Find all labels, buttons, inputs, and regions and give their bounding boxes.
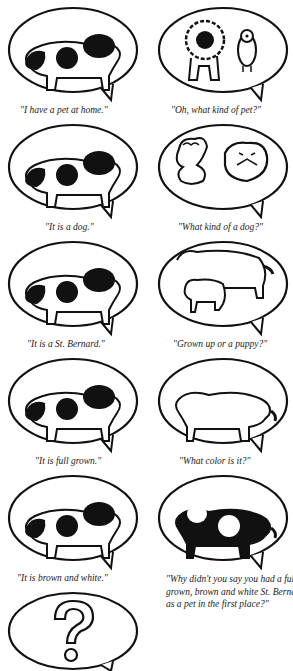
caption: "It is a dog."	[45, 222, 94, 232]
speech-bubble-question	[3, 587, 143, 671]
caption: "It is full grown."	[35, 456, 101, 466]
speech-bubble-icon	[159, 125, 287, 217]
caption: "It is brown and white."	[17, 573, 108, 583]
speech-bubble-spotted-dog	[3, 353, 143, 458]
speech-bubble-adult-puppy	[153, 236, 293, 341]
speech-bubble-spotted-dog	[3, 470, 143, 575]
caption: "Oh, what kind of pet?"	[171, 105, 261, 115]
caption: "What color is it?"	[179, 456, 251, 466]
caption: "I have a pet at home."	[20, 105, 108, 115]
speech-bubble-inverted-dog	[153, 470, 293, 575]
panel-why-didnt-you-say: "Why didn't you say you had a full-grown…	[153, 470, 293, 587]
caption: "It is a St. Bernard."	[27, 339, 105, 349]
caption: "Why didn't you say you had a full-grown…	[166, 573, 293, 611]
speech-bubble-outline-dog	[153, 353, 293, 458]
panel-it-is-a-dog: "It is a dog."	[3, 119, 143, 236]
speech-bubble-poodle-bulldog	[153, 119, 293, 224]
panel-what-kind-of-dog: "What kind of a dog?"	[153, 119, 293, 236]
caption: "What kind of a dog?"	[178, 222, 263, 232]
speech-bubble-spotted-dog	[3, 119, 143, 224]
panel-question-mark	[3, 587, 143, 671]
panel-full-grown: "It is full grown."	[3, 353, 143, 470]
panel-brown-and-white: "It is brown and white."	[3, 470, 143, 587]
panel-what-color: "What color is it?"	[153, 353, 293, 470]
panel-pet-at-home: "I have a pet at home."	[3, 2, 143, 119]
speech-bubble-spotted-dog	[3, 2, 143, 107]
panel-grown-up-or-puppy: "Grown up or a puppy?"	[153, 236, 293, 353]
speech-bubble-icon	[159, 8, 287, 100]
cropped-text-line	[150, 663, 290, 671]
panel-st-bernard: "It is a St. Bernard."	[3, 236, 143, 353]
panel-what-kind-of-pet: "Oh, what kind of pet?"	[153, 2, 293, 119]
bulldog-icon	[225, 143, 267, 181]
caption: "Grown up or a puppy?"	[173, 339, 267, 349]
speech-bubble-lion-owl	[153, 2, 293, 107]
speech-bubble-spotted-dog	[3, 236, 143, 341]
